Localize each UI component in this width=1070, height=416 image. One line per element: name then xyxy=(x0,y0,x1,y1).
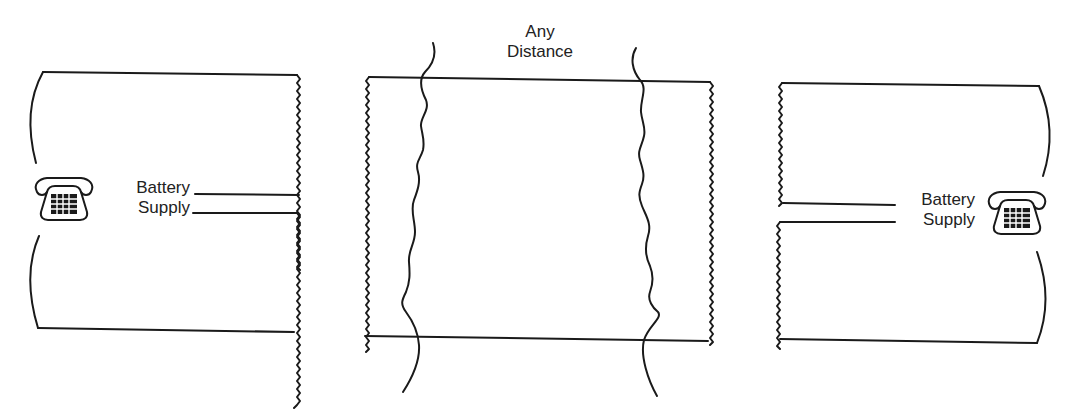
left-circuit-section xyxy=(30,72,300,408)
left-telephone-icon xyxy=(36,178,93,220)
left-bottom-arc xyxy=(30,236,39,328)
right-upper-jagged-edge xyxy=(779,83,782,206)
left-top-arc xyxy=(30,72,43,163)
right-battery-supply-label: Battery Supply xyxy=(885,190,975,230)
middle-label-line1: Any xyxy=(490,22,590,42)
right-top-wire xyxy=(782,83,1039,86)
right-telephone-icon xyxy=(989,192,1046,234)
right-bottom-wire xyxy=(780,339,1037,343)
right-lower-jagged-edge xyxy=(777,222,780,349)
middle-top-wire xyxy=(369,77,710,82)
right-break-line xyxy=(633,48,659,396)
left-bottom-wire xyxy=(38,328,294,332)
middle-label-line2: Distance xyxy=(490,42,590,62)
left-top-wire xyxy=(43,72,297,75)
right-bottom-arc xyxy=(1037,252,1046,343)
middle-bottom-wire xyxy=(365,336,708,341)
left-break-line xyxy=(402,43,434,392)
left-label-line1: Battery xyxy=(100,178,190,198)
middle-circuit-section xyxy=(365,43,713,396)
any-distance-label: Any Distance xyxy=(490,22,590,62)
right-top-arc xyxy=(1039,86,1050,176)
middle-left-jagged-edge xyxy=(366,77,369,352)
left-battery-supply-label: Battery Supply xyxy=(100,178,190,218)
middle-right-jagged-edge xyxy=(710,82,713,345)
right-label-line1: Battery xyxy=(885,190,975,210)
left-label-line2: Supply xyxy=(100,198,190,218)
left-upper-lead xyxy=(195,194,299,195)
right-upper-lead xyxy=(783,203,895,205)
right-label-line2: Supply xyxy=(885,210,975,230)
